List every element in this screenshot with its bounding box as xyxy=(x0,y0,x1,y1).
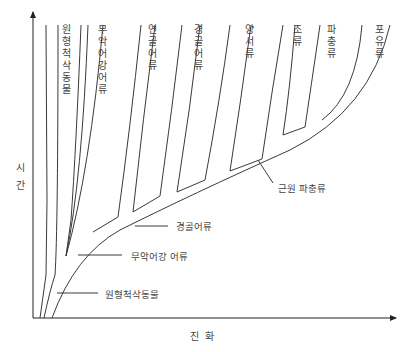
branch-aves xyxy=(230,25,283,171)
annotation-agnatha: 무악어강 어류 xyxy=(131,249,188,263)
branch-label-mammalia: 포유류 xyxy=(373,24,383,60)
branch-label-osteichthyes: 경골어류 xyxy=(192,24,202,72)
branch-label-aves: 조류 xyxy=(291,24,301,48)
annotation-osteichthyes: 경골어류 xyxy=(176,219,212,233)
annotation-protochordates: 원형척삭동물 xyxy=(105,287,159,301)
y-axis-label: 시간 xyxy=(12,162,27,198)
branch-protochordates xyxy=(40,25,47,318)
x-axis-label: 진화 xyxy=(190,328,220,343)
pointer-stem-reptiles xyxy=(258,160,273,183)
branch-label-agnatha: 무악어강어류 xyxy=(96,24,106,96)
branch-label-amphibia: 양서류 xyxy=(243,24,253,60)
branch-label-chondrichthyes: 연골어류 xyxy=(146,24,156,72)
branch-label-reptilia: 파충류 xyxy=(325,24,335,60)
branch-osteichthyes xyxy=(133,25,182,212)
branch-label-protochordates: 원형척삭동물 xyxy=(60,24,70,96)
annotation-stem-reptiles: 근원 파충류 xyxy=(278,181,326,195)
branch-amphibia xyxy=(177,25,230,192)
